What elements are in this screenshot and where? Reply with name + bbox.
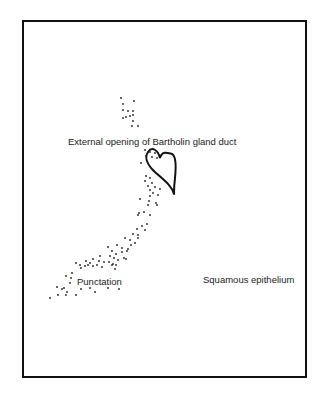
diagram-artwork [0, 0, 320, 397]
label-duct-opening: External opening of Bartholin gland duct [68, 137, 236, 147]
punctation-dots [49, 97, 161, 299]
label-punctation: Punctation [77, 277, 122, 287]
duct-opening-outline [146, 149, 175, 194]
label-squamous-epithelium: Squamous epithelium [203, 275, 294, 285]
